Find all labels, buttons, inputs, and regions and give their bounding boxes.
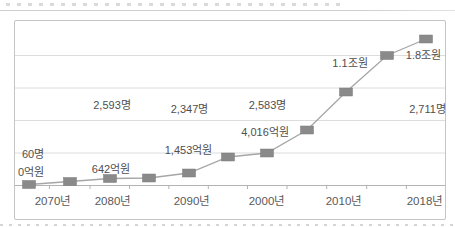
data-label: 4,016억원 xyxy=(241,126,289,138)
data-label: 1.8조원 xyxy=(406,49,441,61)
x-axis-label: 2090년 xyxy=(174,192,211,208)
data-label: 60명 xyxy=(22,148,44,160)
x-axis-label: 2000년 xyxy=(249,192,286,208)
x-axis-label: 2080년 xyxy=(95,192,132,208)
clipped-bottom-text-remnant xyxy=(0,224,455,226)
data-label: 2,347명 xyxy=(171,103,209,115)
data-label: 2,583명 xyxy=(249,99,287,111)
data-label: 642억원 xyxy=(92,163,130,175)
data-label: 0억원 xyxy=(18,166,44,178)
clipped-title-text-remnant xyxy=(6,3,341,6)
x-axis-label: 2018년 xyxy=(407,192,444,208)
data-label: 2,593명 xyxy=(93,99,131,111)
x-axis-label: 2010년 xyxy=(326,192,363,208)
x-axis-label: 2070년 xyxy=(35,192,72,208)
data-label: 2,711명 xyxy=(409,103,446,115)
chart-frame: 60명0억원642억원2,593명2,347명1,453억원4,016억원2,5… xyxy=(14,20,446,220)
chart-labels-layer: 60명0억원642억원2,593명2,347명1,453억원4,016억원2,5… xyxy=(15,21,445,219)
data-label: 1.1조원 xyxy=(332,57,367,69)
data-label: 1,453억원 xyxy=(165,144,213,156)
title-divider-line xyxy=(0,10,455,11)
figure-root: 60명0억원642억원2,593명2,347명1,453억원4,016억원2,5… xyxy=(0,0,455,227)
